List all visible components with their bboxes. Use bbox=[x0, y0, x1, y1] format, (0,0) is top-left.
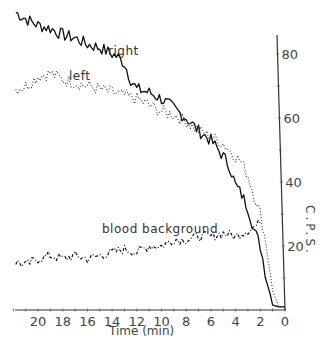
x-tick-label: 0 bbox=[281, 314, 289, 329]
x-tick-label: 16 bbox=[79, 314, 96, 329]
plot-area bbox=[16, 13, 285, 307]
x-tick-label: 18 bbox=[54, 314, 71, 329]
y-tick-label: 60 bbox=[283, 111, 300, 126]
y-axis bbox=[277, 35, 285, 310]
x-tick-label: 4 bbox=[231, 314, 239, 329]
chart: 2018161412108642020406080 right left blo… bbox=[0, 0, 322, 348]
x-tick-label: 2 bbox=[256, 314, 264, 329]
y-tick-label: 20 bbox=[287, 239, 304, 254]
x-tick-label: 20 bbox=[30, 314, 47, 329]
axes: 2018161412108642020406080 bbox=[13, 35, 303, 329]
series-label-right: right bbox=[108, 44, 139, 58]
x-tick-label: 8 bbox=[182, 314, 190, 329]
y-axis-title: C.P.S. bbox=[303, 205, 317, 256]
y-tick-label: 40 bbox=[285, 175, 302, 190]
x-axis-title: Time (min) bbox=[108, 324, 174, 338]
series-left bbox=[16, 71, 285, 307]
series-label-left: left bbox=[69, 69, 90, 83]
y-tick-label: 80 bbox=[282, 47, 299, 62]
series-label-blood-background: blood background bbox=[102, 222, 218, 236]
series-right bbox=[16, 13, 285, 307]
x-tick-label: 6 bbox=[207, 314, 215, 329]
